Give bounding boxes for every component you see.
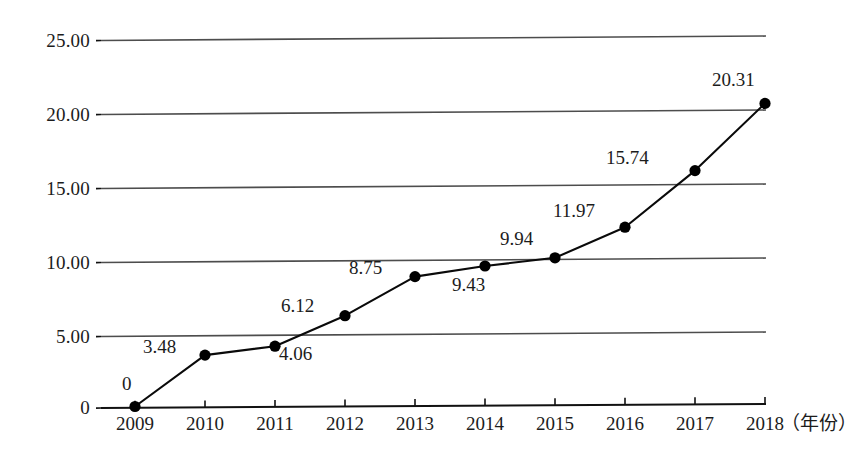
data-point-2016: [619, 222, 630, 233]
point-label-2016: 11.97: [553, 201, 595, 220]
data-point-2013: [409, 271, 420, 282]
point-label-2009: 0: [122, 374, 132, 393]
line-chart: 25.00 20.00 15.00 10.00 5.00 0 2009 2010…: [0, 0, 862, 459]
data-point-2015: [549, 252, 560, 263]
y-tick-label-5: 5.00: [0, 327, 90, 346]
gridline-25: [101, 36, 766, 41]
data-series-line: [135, 103, 765, 406]
x-axis-caption: （年份）: [781, 414, 857, 433]
y-tick-label-20: 20.00: [0, 105, 90, 124]
x-tick-label-2015: 2015: [515, 414, 595, 433]
gridline-10: [101, 258, 766, 263]
point-label-2015: 9.94: [500, 229, 533, 248]
data-point-2009: [129, 401, 140, 412]
x-tick-label-2009: 2009: [95, 414, 175, 433]
x-tick-label-2011: 2011: [235, 414, 315, 433]
data-point-2012: [339, 310, 350, 321]
y-tick-label-25: 25.00: [0, 31, 90, 50]
x-tick-label-2014: 2014: [445, 414, 525, 433]
data-point-markers: [129, 98, 770, 412]
data-point-2010: [199, 350, 210, 361]
gridline-20: [101, 110, 766, 115]
x-tick-label-2016: 2016: [585, 414, 665, 433]
gridline-5: [101, 332, 766, 337]
y-tick-label-15: 15.00: [0, 179, 90, 198]
x-tick-label-2010: 2010: [165, 414, 245, 433]
point-label-2017: 15.74: [606, 148, 649, 167]
data-point-2017: [689, 165, 700, 176]
gridline-15: [101, 184, 766, 189]
point-label-2011: 4.06: [279, 344, 312, 363]
y-axis-tick-stubs: [96, 41, 101, 409]
x-tick-label-2012: 2012: [305, 414, 385, 433]
data-point-2018: [759, 98, 770, 109]
point-label-2014: 9.43: [452, 275, 485, 294]
point-label-2010: 3.48: [143, 337, 176, 356]
y-tick-label-0: 0: [0, 398, 90, 417]
gridlines: [101, 36, 766, 337]
x-axis-line: [101, 404, 766, 408]
point-label-2013: 8.75: [349, 258, 382, 277]
data-point-2014: [479, 260, 490, 271]
x-tick-label-2013: 2013: [375, 414, 455, 433]
x-tick-label-2017: 2017: [655, 414, 735, 433]
point-label-2018: 20.31: [712, 70, 755, 89]
point-label-2012: 6.12: [281, 296, 314, 315]
y-tick-label-10: 10.00: [0, 253, 90, 272]
